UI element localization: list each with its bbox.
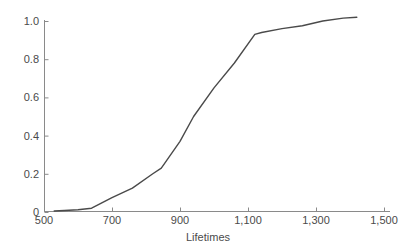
chart-container: 00.20.40.60.81.0 5007009001,1001,3001,50… [0, 0, 416, 250]
y-axis-tick-label: 0.6 [0, 92, 39, 103]
x-axis-title: Lifetimes [0, 231, 416, 243]
x-axis-tick-label: 500 [19, 215, 69, 226]
x-axis-tick-label: 1,100 [223, 215, 273, 226]
y-axis-tick-label: 1.0 [0, 16, 39, 27]
x-axis-tick-label: 1,300 [291, 215, 341, 226]
x-axis-tick-label: 700 [87, 215, 137, 226]
chart-plot-area [0, 0, 416, 250]
x-axis-tick-label: 900 [155, 215, 205, 226]
y-axis-tick-label: 0.4 [0, 131, 39, 142]
y-axis-tick-label: 0.2 [0, 169, 39, 180]
data-series-line [54, 17, 357, 211]
x-axis-tick-label: 1,500 [359, 215, 409, 226]
y-axis-tick-label: 0.8 [0, 54, 39, 65]
y-axis-ticks [45, 22, 49, 213]
x-axis-ticks [45, 208, 385, 212]
